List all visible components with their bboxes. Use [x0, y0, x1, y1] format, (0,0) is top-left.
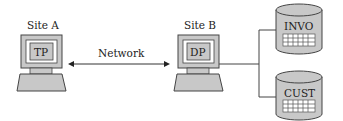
keyboard-icon	[17, 74, 66, 91]
database-invo: INVO	[276, 4, 322, 54]
site-b: Site B DP	[174, 19, 223, 91]
site-a: Site A TP	[17, 19, 66, 91]
network-link: Network	[68, 47, 170, 67]
distributed-db-diagram: Site A TP Network Site B DP INVO	[0, 0, 343, 121]
site-a-label: Site A	[27, 19, 59, 31]
site-b-terminal-label: DP	[190, 46, 205, 58]
database-cust-label: CUST	[284, 87, 315, 99]
site-b-label: Site B	[184, 19, 216, 31]
network-label: Network	[98, 47, 145, 59]
keyboard-icon	[174, 74, 223, 91]
site-a-terminal-label: TP	[34, 46, 48, 58]
arrow-left-icon	[68, 61, 74, 67]
database-icon	[276, 10, 322, 54]
db-connectors	[219, 30, 276, 97]
arrow-right-icon	[164, 61, 170, 67]
database-cust: CUST	[276, 71, 322, 120]
database-invo-label: INVO	[284, 20, 314, 32]
